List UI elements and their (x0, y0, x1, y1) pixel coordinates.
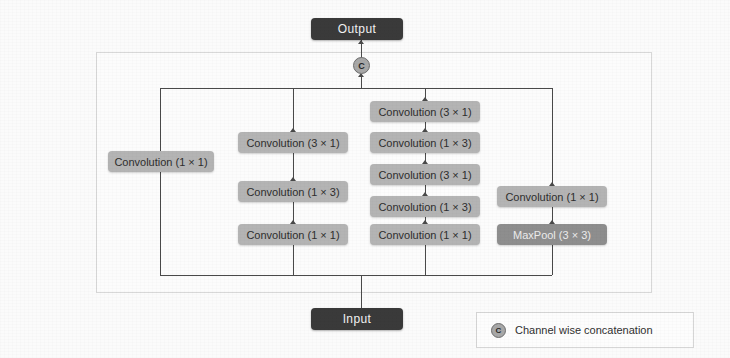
branch4-op-maxpool3x3: MaxPool (3 × 3) (497, 224, 607, 245)
branch3-op-conv3x1-a: Convolution (3 × 1) (370, 101, 480, 122)
wire-branch1-lower (160, 172, 161, 275)
concat-node: C (353, 57, 370, 74)
branch1-op-conv1x1: Convolution (1 × 1) (108, 151, 214, 172)
arrow-to-output (358, 40, 364, 44)
legend-label: Channel wise concatenation (515, 324, 653, 336)
wire-branch1-upper (160, 88, 161, 151)
branch3-op-conv1x3-a: Convolution (1 × 3) (370, 132, 480, 153)
diagram-canvas: Output Input C Convolution (1 × 1) Convo… (0, 0, 730, 358)
branch2-op-conv1x3: Convolution (1 × 3) (238, 181, 348, 202)
bottom-split-rail (160, 275, 552, 276)
legend-concat-icon: C (491, 323, 506, 338)
branch4-op-conv1x1: Convolution (1 × 1) (497, 186, 607, 207)
branch2-op-conv3x1: Convolution (3 × 1) (238, 132, 348, 153)
branch2-op-conv1x1: Convolution (1 × 1) (238, 224, 348, 245)
branch3-op-conv3x1-b: Convolution (3 × 1) (370, 164, 480, 185)
wire-input-to-bottomrail (361, 275, 362, 308)
top-merge-rail (160, 88, 552, 89)
output-node: Output (311, 18, 403, 40)
branch3-op-conv1x3-b: Convolution (1 × 3) (370, 196, 480, 217)
branch3-op-conv1x1: Convolution (1 × 1) (370, 224, 480, 245)
legend-box: C Channel wise concatenation (476, 312, 694, 348)
input-node: Input (311, 308, 403, 330)
